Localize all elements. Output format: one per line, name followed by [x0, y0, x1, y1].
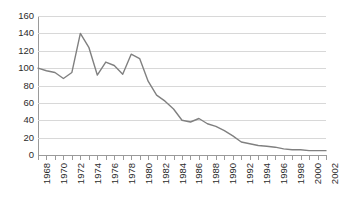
data-line-series [0, 0, 346, 201]
series-line [38, 33, 326, 150]
line-chart: 020406080100120140160 196819701972197419… [0, 0, 346, 201]
